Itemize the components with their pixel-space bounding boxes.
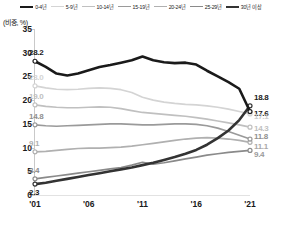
series-value-label: 28.2	[29, 48, 43, 57]
legend-swatch-line-icon	[20, 6, 33, 8]
series-line	[35, 105, 250, 127]
legend-swatch-line-icon	[82, 6, 95, 7]
tenure-share-line-chart: 0-4년5-9년10-14년15-19년20-24년25-29년30년 이상 (…	[0, 0, 282, 227]
legend-label: 15-19년	[133, 3, 150, 10]
legend-item[interactable]: 10-14년	[82, 3, 114, 10]
x-tick-label: '01	[29, 199, 40, 209]
series-value-label: 17.1	[254, 111, 268, 120]
chart-legend: 0-4년5-9년10-14년15-19년20-24년25-29년30년 이상	[0, 1, 282, 12]
series-endpoint-marker	[33, 182, 37, 186]
y-tick-label: 35	[23, 24, 32, 34]
legend-item[interactable]: 0-4년	[20, 3, 47, 10]
legend-swatch-line-icon	[226, 6, 239, 8]
legend-swatch-line-icon	[118, 6, 131, 7]
series-endpoint-marker	[33, 123, 37, 127]
legend-label: 0-4년	[35, 3, 47, 10]
x-tick-label: '11	[137, 199, 148, 209]
series-endpoint-marker	[248, 148, 252, 152]
y-tick-label: 15	[23, 119, 32, 129]
series-value-label: 14.8	[29, 111, 43, 120]
series-value-label: 9.1	[29, 138, 39, 147]
series-value-label: 19.0	[29, 91, 43, 100]
series-value-label: 23.0	[29, 72, 43, 81]
legend-label: 20-24년	[169, 3, 186, 10]
x-tick-label: '06	[83, 199, 94, 209]
series-endpoint-marker	[248, 125, 252, 129]
series-endpoint-marker	[248, 137, 252, 141]
series-endpoint-marker	[248, 110, 252, 114]
series-value-label: 11.8	[254, 132, 268, 141]
series-endpoint-marker	[33, 84, 37, 88]
legend-swatch-line-icon	[51, 6, 64, 7]
plot-area: 05101520253035 '01'06'11'16'21 28.223.01…	[34, 29, 250, 195]
x-tick-label: '16	[191, 199, 202, 209]
series-endpoint-marker	[33, 177, 37, 181]
series-lines	[35, 29, 250, 195]
legend-swatch-line-icon	[190, 6, 203, 7]
legend-label: 25-29년	[205, 3, 222, 10]
legend-item[interactable]: 5-9년	[51, 3, 78, 10]
legend-item[interactable]: 20-24년	[154, 3, 186, 10]
legend-item[interactable]: 30년 이상	[226, 3, 262, 10]
series-line	[35, 57, 250, 112]
legend-label: 5-9년	[66, 3, 78, 10]
series-endpoint-marker	[33, 59, 37, 63]
series-line	[35, 86, 250, 114]
series-value-label: 2.3	[29, 188, 39, 197]
series-endpoint-marker	[33, 103, 37, 107]
series-value-label: 9.4	[254, 150, 264, 159]
legend-swatch-line-icon	[154, 6, 167, 7]
legend-item[interactable]: 15-19년	[118, 3, 150, 10]
series-value-label: 18.8	[254, 92, 268, 101]
x-axis-baseline	[35, 195, 250, 196]
x-tick-label: '21	[244, 199, 255, 209]
series-line	[35, 138, 250, 152]
series-endpoint-marker	[33, 150, 37, 154]
legend-item[interactable]: 25-29년	[190, 3, 222, 10]
series-value-label: 3.4	[29, 165, 39, 174]
legend-label: 10-14년	[97, 3, 114, 10]
legend-label: 30년 이상	[241, 3, 262, 10]
